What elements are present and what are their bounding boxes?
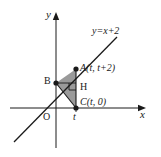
line-y-equals-x-plus-2 — [14, 37, 117, 142]
line-equation-label: y=x+2 — [92, 26, 119, 36]
point-a-label: A(t, t+2) — [80, 63, 115, 73]
point-a-marker — [73, 66, 78, 71]
x-axis-label: x — [140, 109, 145, 120]
point-c-label: C(t, 0) — [80, 97, 106, 107]
point-b-label: B — [44, 76, 51, 86]
origin-label: O — [43, 112, 50, 122]
point-c-marker — [73, 105, 78, 110]
coordinate-diagram — [0, 0, 161, 157]
x-axis-tick-label-t: t — [73, 112, 76, 122]
point-b-marker — [53, 80, 58, 85]
figure-screenshot: y x O t y=x+2 A(t, t+2) B H C(t, 0) — [0, 0, 161, 157]
point-h-label: H — [80, 82, 87, 92]
y-axis-arrowhead — [53, 12, 59, 20]
y-axis-label: y — [46, 9, 51, 20]
